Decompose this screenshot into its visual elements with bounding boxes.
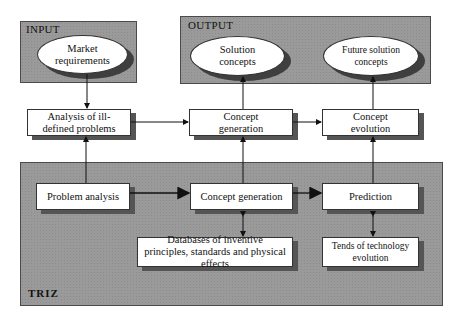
connector-arrows xyxy=(0,0,458,321)
